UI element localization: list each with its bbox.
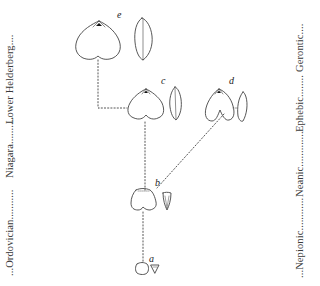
specimen-a — [136, 263, 160, 275]
connector-e-c — [98, 60, 127, 108]
shell-b-ventral — [131, 189, 156, 211]
brachiopod-evolution-diagram: ...Ordovician........... Niagara........… — [0, 0, 320, 286]
connector-d-b — [157, 114, 224, 188]
lineage-connectors — [98, 60, 224, 262]
specimen-e — [76, 18, 152, 60]
specimen-c — [128, 87, 181, 120]
specimen-b — [131, 189, 171, 211]
shell-a-side — [151, 265, 159, 273]
specimen-d — [205, 89, 247, 121]
shell-e-ventral — [76, 21, 121, 59]
diagram-drawing — [0, 0, 320, 286]
shell-e-side — [135, 18, 152, 60]
shell-c-ventral — [128, 89, 164, 119]
shell-d-ventral — [205, 89, 234, 121]
shell-d-side — [238, 92, 247, 121]
shell-a-ventral — [136, 263, 149, 275]
